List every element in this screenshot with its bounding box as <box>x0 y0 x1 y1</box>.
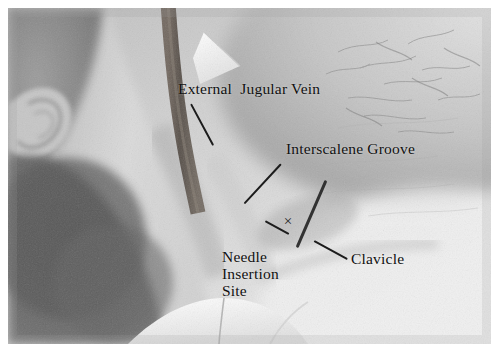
photograph-canvas <box>8 8 491 344</box>
clinical-photograph <box>8 8 491 344</box>
figure-page: External Jugular Vein Interscalene Groov… <box>0 0 499 352</box>
